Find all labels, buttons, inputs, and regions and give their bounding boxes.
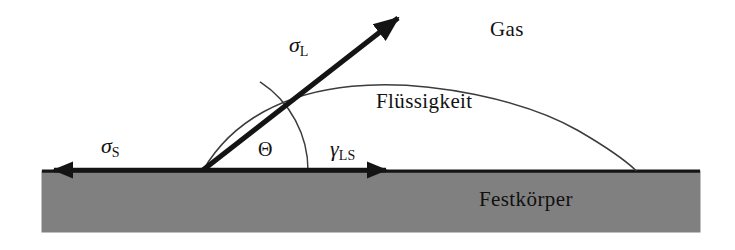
gamma-ls-symbol: γ xyxy=(330,136,339,161)
gamma-ls-label: γLS xyxy=(330,138,355,163)
sigma-s-symbol: σ xyxy=(101,133,112,158)
theta-symbol: Θ xyxy=(258,138,272,160)
diagram-canvas xyxy=(0,0,735,250)
sigma-l-subscript: L xyxy=(300,44,309,59)
liquid-region-label: Flüssigkeit xyxy=(376,91,473,112)
gamma-ls-subscript: LS xyxy=(339,148,356,163)
sigma-l-label: σL xyxy=(289,34,309,59)
sigma-s-subscript: S xyxy=(112,145,120,160)
solid-substrate-block xyxy=(42,171,700,232)
contact-angle-label: Θ xyxy=(258,139,272,159)
gas-region-label: Gas xyxy=(490,19,524,40)
sigma-l-symbol: σ xyxy=(289,32,300,57)
contact-angle-diagram: σL σS γLS Θ Gas Flüssigkeit Festkörper xyxy=(0,0,735,250)
sigma-s-label: σS xyxy=(101,135,120,160)
solid-region-label: Festkörper xyxy=(479,189,573,210)
